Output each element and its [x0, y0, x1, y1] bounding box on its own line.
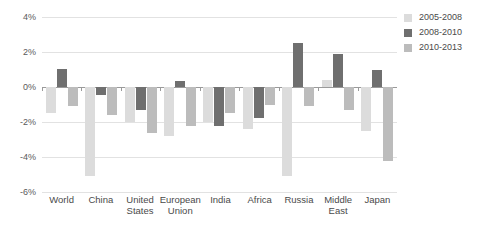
bar-slot	[225, 17, 235, 192]
bar[interactable]	[136, 87, 146, 110]
bar[interactable]	[68, 87, 78, 106]
bar[interactable]	[322, 80, 332, 87]
legend-item[interactable]: 2008-2010	[404, 28, 462, 37]
bar[interactable]	[282, 87, 292, 176]
bar[interactable]	[164, 87, 174, 136]
bar-group	[200, 17, 239, 192]
bar-slot	[107, 17, 117, 192]
bar-slot	[203, 17, 213, 192]
bar-group-bars	[358, 17, 397, 192]
bar-slot	[147, 17, 157, 192]
bar-chart: 4%2%0%-2%-4%-6% WorldChinaUnited StatesE…	[0, 0, 478, 228]
bar[interactable]	[214, 87, 224, 126]
x-axis-category-label: United States	[120, 194, 159, 216]
chart-legend: 2005-20082008-20102010-2013	[404, 13, 462, 52]
bar[interactable]	[254, 87, 264, 118]
bar-slot	[243, 17, 253, 192]
legend-swatch-icon	[404, 14, 412, 22]
x-axis-category-label: China	[81, 194, 120, 216]
bar-group-bars	[279, 17, 318, 192]
bar[interactable]	[85, 87, 95, 176]
bar-group-bars	[121, 17, 160, 192]
bar-slot	[344, 17, 354, 192]
y-axis-tick-label: 4%	[23, 13, 36, 22]
y-axis-tick-label: 0%	[23, 83, 36, 92]
x-axis-category-label: European Union	[160, 194, 201, 216]
bar-group-bars	[81, 17, 120, 192]
bar[interactable]	[107, 87, 117, 115]
bar-slot	[282, 17, 292, 192]
bar-slot	[186, 17, 196, 192]
bar-slot	[46, 17, 56, 192]
bar-group	[239, 17, 278, 192]
bar[interactable]	[383, 87, 393, 161]
bar-group	[358, 17, 397, 192]
bar[interactable]	[361, 87, 371, 131]
x-axis-category-label: World	[42, 194, 81, 216]
legend-swatch-icon	[404, 29, 412, 37]
legend-swatch-icon	[404, 44, 412, 52]
x-axis-category-label: Russia	[279, 194, 318, 216]
bar-slot	[254, 17, 264, 192]
bar[interactable]	[147, 87, 157, 133]
gridline: -6%	[42, 192, 397, 193]
bar[interactable]	[243, 87, 253, 129]
bar[interactable]	[57, 69, 67, 87]
bar[interactable]	[372, 70, 382, 87]
y-axis-tick-label: -6%	[20, 188, 36, 197]
bar-group	[318, 17, 357, 192]
bar[interactable]	[125, 87, 135, 122]
bar-slot	[164, 17, 174, 192]
x-axis-category-label: Africa	[240, 194, 279, 216]
bar[interactable]	[203, 87, 213, 122]
bar-group-bars	[42, 17, 81, 192]
bar-slot	[383, 17, 393, 192]
bar[interactable]	[46, 87, 56, 113]
bar-group-bars	[239, 17, 278, 192]
bar-slot	[333, 17, 343, 192]
legend-item[interactable]: 2005-2008	[404, 13, 462, 22]
bar-group-bars	[200, 17, 239, 192]
bar-slot	[322, 17, 332, 192]
bar-slot	[372, 17, 382, 192]
bar-slot	[96, 17, 106, 192]
bar-slot	[57, 17, 67, 192]
bar-slot	[125, 17, 135, 192]
x-axis-category-label: Middle East	[319, 194, 358, 216]
bar[interactable]	[304, 87, 314, 106]
y-axis-tick-label: -4%	[20, 153, 36, 162]
legend-item[interactable]: 2010-2013	[404, 43, 462, 52]
bar-group	[160, 17, 199, 192]
bar[interactable]	[96, 87, 106, 95]
bar-groups	[42, 17, 397, 192]
bar-slot	[68, 17, 78, 192]
bar-slot	[293, 17, 303, 192]
bar[interactable]	[225, 87, 235, 113]
y-axis-tick-label: -2%	[20, 118, 36, 127]
bar-slot	[265, 17, 275, 192]
bar[interactable]	[265, 87, 275, 105]
bar[interactable]	[293, 43, 303, 87]
bar[interactable]	[186, 87, 196, 126]
bar-slot	[361, 17, 371, 192]
bar-group	[42, 17, 81, 192]
bar-slot	[214, 17, 224, 192]
bar-group	[121, 17, 160, 192]
y-axis-tick-label: 2%	[23, 48, 36, 57]
x-axis-category-labels: WorldChinaUnited StatesEuropean UnionInd…	[42, 194, 397, 216]
bar-group	[279, 17, 318, 192]
bar-group-bars	[160, 17, 199, 192]
legend-label: 2010-2013	[419, 43, 462, 52]
bar[interactable]	[333, 54, 343, 87]
bar-group-bars	[318, 17, 357, 192]
plot-area: 4%2%0%-2%-4%-6%	[42, 17, 397, 192]
legend-label: 2005-2008	[419, 13, 462, 22]
bar-slot	[85, 17, 95, 192]
bar-group	[81, 17, 120, 192]
bar[interactable]	[344, 87, 354, 110]
bar-slot	[136, 17, 146, 192]
bar[interactable]	[175, 81, 185, 87]
bar-slot	[304, 17, 314, 192]
bar-slot	[175, 17, 185, 192]
x-axis-category-label: India	[201, 194, 240, 216]
